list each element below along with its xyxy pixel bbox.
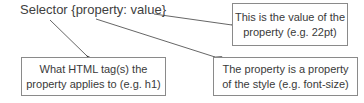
arrow-to-selector: [50, 20, 87, 56]
value-callout-line1: This is the value of the: [235, 10, 345, 25]
property-callout-line1: The property is a property: [222, 62, 349, 77]
arrow-to-property: [96, 19, 215, 57]
selector-callout-line2: property applies to (e.g. h1): [26, 77, 161, 92]
value-callout-box: This is the value of the property (e.g. …: [232, 3, 348, 46]
property-callout-box: The property is a property of the style …: [213, 57, 358, 96]
selector-callout-line1: What HTML tag(s) the: [26, 62, 161, 77]
property-callout-line2: of the style (e.g. font-size): [222, 77, 349, 92]
css-syntax-rule: Selector {property: value}: [20, 2, 166, 18]
selector-callout-box: What HTML tag(s) the property applies to…: [21, 57, 166, 96]
value-callout-line2: property (e.g. 22pt): [235, 25, 345, 40]
